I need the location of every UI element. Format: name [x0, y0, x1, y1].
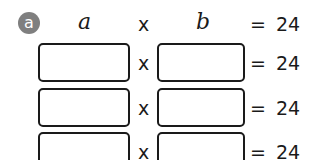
product-value: 24 [276, 97, 300, 119]
factor-b-input-1[interactable] [157, 43, 245, 82]
factor-b-input-3[interactable] [157, 132, 245, 160]
times-sign: x [138, 13, 149, 35]
product-value: 24 [276, 52, 300, 74]
product-value: 24 [276, 13, 300, 35]
times-sign: x [138, 52, 149, 74]
equals-sign: = [250, 52, 266, 74]
factor-a-input-2[interactable] [38, 88, 130, 127]
factor-a-input-3[interactable] [38, 132, 130, 160]
exercise-label-badge: a [18, 12, 40, 34]
variable-a: a [78, 10, 91, 34]
equals-sign: = [250, 97, 266, 119]
variable-b: b [196, 10, 210, 34]
equals-sign: = [250, 141, 266, 160]
times-sign: x [138, 97, 149, 119]
product-value: 24 [276, 141, 300, 160]
factor-a-input-1[interactable] [38, 43, 130, 82]
equals-sign: = [250, 13, 266, 35]
factor-b-input-2[interactable] [157, 88, 245, 127]
times-sign: x [138, 141, 149, 160]
